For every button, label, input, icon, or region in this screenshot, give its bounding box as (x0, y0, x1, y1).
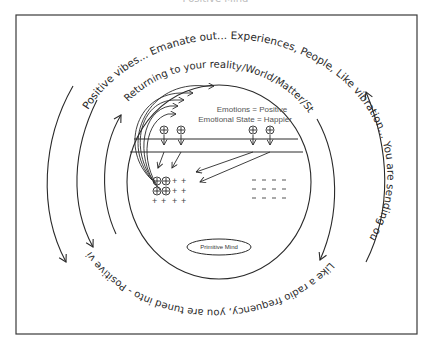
charge-icon (153, 177, 161, 185)
charge-icon (266, 126, 274, 134)
charge-icon (249, 126, 257, 134)
svg-text:+: + (172, 176, 177, 186)
arrow-up-icon (105, 115, 121, 234)
emotions-label: Emotions = Positive (217, 105, 288, 114)
feedback-loop-arrows (135, 86, 214, 190)
emotional-state-label: Emotional State = Happier (198, 115, 292, 124)
svg-text:+: + (172, 186, 177, 196)
left-circulation-arrows (47, 86, 121, 262)
charge-icon (162, 177, 170, 185)
vibration-diagram: Positive vibes... Emanate out... Experie… (0, 0, 431, 353)
svg-text:+: + (161, 196, 166, 206)
svg-text:+: + (152, 196, 157, 206)
primitive-mind-label: Primitive Mind (200, 244, 238, 250)
svg-text:+: + (181, 196, 186, 206)
charge-icon (162, 187, 170, 195)
charge-down-arrows (164, 135, 270, 145)
minus-signs (252, 180, 286, 198)
arrow-down-icon (317, 119, 335, 260)
positive-charges (160, 126, 274, 134)
charge-cluster (153, 177, 170, 195)
svg-text:+: + (181, 186, 186, 196)
arrow-down-icon (47, 86, 73, 262)
charge-icon (160, 126, 168, 134)
charge-icon (177, 126, 185, 134)
arrow-down-icon (77, 100, 97, 247)
inner-curved-text: Returning to your reality/World/Matter/S… (0, 0, 316, 114)
svg-text:+: + (181, 176, 186, 186)
charge-icon (153, 187, 161, 195)
svg-text:+: + (172, 196, 177, 206)
